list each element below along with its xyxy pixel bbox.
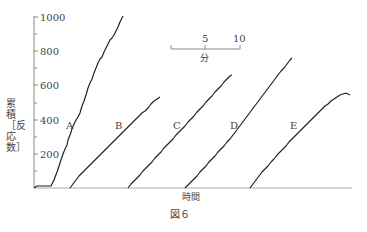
curve-label-e: E [290,120,297,131]
figure-caption: 図６ [170,206,190,221]
curve-a [34,16,123,188]
scale-tick-5: 5 [202,33,208,44]
y-axis-label: 累積［反応数］ [6,98,18,153]
y-tick-600: 600 [40,80,59,91]
curve-label-c: C [173,120,181,131]
scale-unit: 分 [200,53,209,63]
curve-e [250,93,350,188]
y-tick-1000: 1000 [40,12,65,23]
y-tick-800: 800 [40,46,59,57]
curve-c [128,75,232,188]
y-tick-200: 200 [40,149,59,160]
curve-b [70,97,160,188]
y-tick-400: 400 [40,115,59,126]
scale-tick-10: 10 [233,33,246,44]
curve-label-a: A [65,120,74,131]
x-axis-label: 時間 [182,190,200,203]
curve-label-d: D [230,120,238,131]
curve-d [185,58,292,188]
time-scale-bar [171,45,240,49]
y-ticks [34,17,38,171]
curve-label-b: B [115,120,122,131]
